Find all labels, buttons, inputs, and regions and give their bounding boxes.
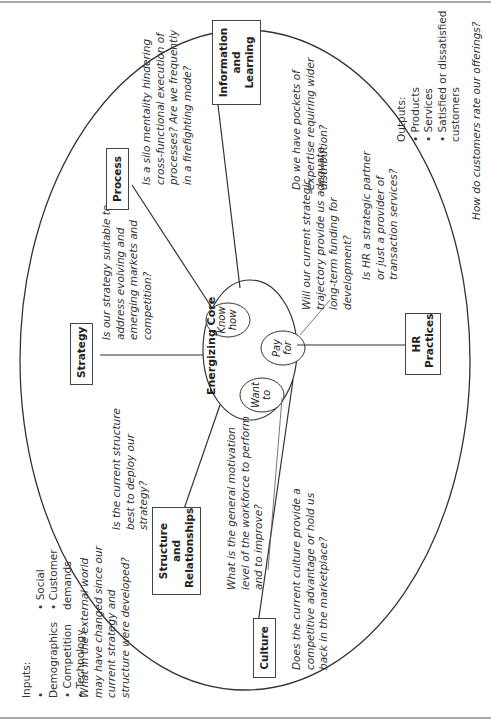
pay-for-label: Pay for <box>271 333 293 363</box>
pointer-want-to <box>268 398 282 570</box>
strategy-box: Strategy <box>70 323 93 385</box>
input-item: Demographics <box>34 622 61 698</box>
want-to-question: What is the general motivation level of … <box>225 410 266 590</box>
know-how-label: Know how <box>216 305 238 335</box>
inputs-heading: Inputs: <box>20 528 34 698</box>
info-box: Information and Learning <box>212 20 261 105</box>
hr-box: HR Practices <box>405 313 441 375</box>
culture-question: Does the current culture provide a compe… <box>290 485 331 670</box>
want-to-label: Want to <box>250 380 272 410</box>
output-item: Products <box>409 2 423 142</box>
structure-question: Is the current structure best to deploy … <box>110 400 151 530</box>
process-question: Is a silo mentality hindering cross-func… <box>140 25 194 185</box>
input-item: Customer demands <box>47 528 74 610</box>
outputs-question: How do customers rate our offerings? <box>470 0 484 220</box>
outputs-heading: Outputs: <box>395 2 409 142</box>
organization-diagram: Inputs: Demographics Competition Technol… <box>0 0 491 720</box>
output-item: Services <box>422 2 436 142</box>
input-item: Competition <box>61 622 75 698</box>
inputs-question: What in the external world may have chan… <box>78 543 132 698</box>
outputs-block: Outputs: Products Services Satisfied or … <box>395 2 463 142</box>
culture-box: Culture <box>253 618 276 678</box>
hr-question: Is HR a strategic partner or just a prov… <box>360 140 401 280</box>
strategy-question: Is our strategy suitable to address evol… <box>100 190 154 340</box>
spoke-info <box>215 80 240 288</box>
input-item: Social <box>34 528 48 610</box>
pay-for-question: Will our current strategic trajectory pr… <box>300 140 354 310</box>
structure-box: Structure and Relationships <box>152 507 201 595</box>
outputs-list: Products Services Satisfied or dissatisf… <box>409 2 463 142</box>
process-box: Process <box>106 148 129 210</box>
output-item: Satisfied or dissatisfied customers <box>436 2 463 142</box>
